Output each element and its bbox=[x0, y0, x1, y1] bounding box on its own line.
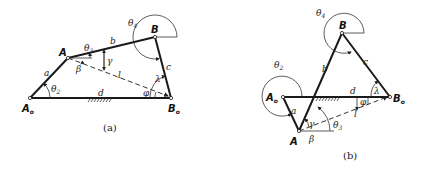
label-phi: φ bbox=[143, 88, 150, 98]
label-link-l: l bbox=[354, 109, 357, 119]
label-link-a: a bbox=[44, 68, 49, 78]
label-lambda: λ bbox=[154, 74, 161, 84]
joint-B bbox=[340, 31, 343, 34]
figure-b: Ao A B Bo a b c d l θ2 θ3 θ4 γ β λ φ (b) bbox=[262, 8, 405, 161]
label-link-d: d bbox=[98, 88, 104, 98]
label-theta3: θ3 bbox=[84, 43, 93, 54]
label-theta2: θ2 bbox=[51, 84, 60, 95]
label-lambda: λ bbox=[373, 86, 380, 96]
label-B0: Bo bbox=[168, 103, 180, 115]
label-theta2: θ2 bbox=[274, 60, 283, 71]
label-theta4: θ4 bbox=[128, 18, 137, 29]
label-phi: φ bbox=[360, 97, 367, 107]
caption-b: (b) bbox=[343, 150, 357, 161]
label-beta: β bbox=[75, 64, 81, 74]
label-A0: Ao bbox=[21, 103, 34, 115]
joint-A0 bbox=[281, 95, 284, 98]
label-A: A bbox=[58, 47, 67, 58]
label-theta3: θ3 bbox=[333, 120, 342, 131]
label-link-a: a bbox=[291, 106, 296, 116]
label-link-c: c bbox=[166, 62, 171, 72]
theta3-arc bbox=[318, 107, 330, 131]
figure-a: Ao A B Bo a b c d l θ2 θ3 θ4 γ β λ φ (a) bbox=[21, 15, 180, 133]
label-B: B bbox=[151, 24, 159, 35]
label-A0: Ao bbox=[265, 92, 278, 104]
joint-B bbox=[153, 35, 156, 38]
label-link-d: d bbox=[350, 86, 356, 96]
link-b bbox=[299, 33, 342, 131]
joint-A bbox=[297, 129, 300, 132]
joint-A0 bbox=[28, 96, 31, 99]
label-B0: Bo bbox=[393, 93, 405, 105]
label-beta: β bbox=[308, 134, 314, 144]
theta2-arc bbox=[44, 84, 50, 99]
label-gamma: γ bbox=[107, 56, 113, 66]
label-link-l: l bbox=[118, 70, 121, 80]
label-link-b: b bbox=[322, 64, 328, 74]
label-link-c: c bbox=[363, 57, 368, 67]
caption-a: (a) bbox=[103, 122, 117, 133]
ground-hatch bbox=[88, 99, 111, 102]
joint-B0 bbox=[388, 95, 391, 98]
label-theta4: θ4 bbox=[316, 8, 325, 19]
label-A: A bbox=[289, 136, 298, 147]
fourbar-diagram: Ao A B Bo a b c d l θ2 θ3 θ4 γ β λ φ (a) bbox=[0, 0, 421, 171]
joint-A bbox=[66, 56, 69, 59]
joint-B0 bbox=[169, 96, 172, 99]
label-B: B bbox=[339, 20, 347, 31]
label-gamma: γ bbox=[309, 119, 315, 129]
ground-hatch bbox=[316, 98, 339, 101]
label-link-b: b bbox=[110, 36, 116, 46]
